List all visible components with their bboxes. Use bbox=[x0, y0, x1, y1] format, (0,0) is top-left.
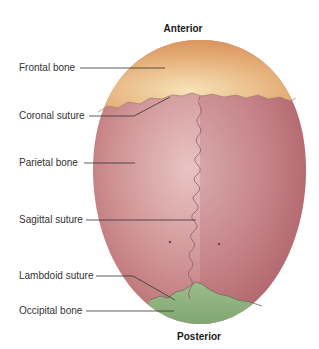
sagittal-suture-label: Sagittal suture bbox=[19, 214, 83, 226]
skull-illustration bbox=[0, 0, 319, 349]
occipital-bone-label: Occipital bone bbox=[19, 305, 82, 317]
parietal-bone-label: Parietal bone bbox=[19, 157, 78, 169]
frontal-bone-label: Frontal bone bbox=[19, 62, 75, 74]
anterior-label: Anterior bbox=[164, 23, 203, 35]
coronal-suture-label: Coronal suture bbox=[19, 110, 85, 122]
posterior-label: Posterior bbox=[177, 331, 221, 343]
lambdoid-suture-label: Lambdoid suture bbox=[19, 270, 94, 282]
